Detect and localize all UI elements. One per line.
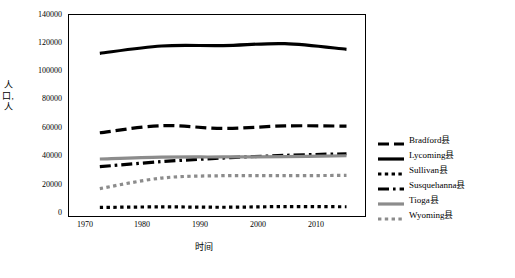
legend-label: Tioga县 <box>409 195 439 205</box>
legend-key-swatch <box>378 135 404 145</box>
legend-key-swatch <box>378 195 404 205</box>
series-line <box>100 44 347 54</box>
legend-item[interactable]: Sullivan县 <box>378 162 510 177</box>
legend-item[interactable]: Bradford县 <box>378 132 510 147</box>
legend-label: Bradford县 <box>409 135 451 145</box>
y-tick-label: 60000 <box>0 124 62 132</box>
y-tick-label: 100000 <box>0 67 62 75</box>
legend-item[interactable]: Tioga县 <box>378 192 510 207</box>
y-tick-label: 140000 <box>0 11 62 19</box>
legend-label: Sullivan县 <box>409 165 448 175</box>
x-tick-label: 1970 <box>70 221 100 229</box>
y-tick-label: 20000 <box>0 181 62 189</box>
legend-item[interactable]: Wyoming县 <box>378 207 510 222</box>
plot-inner <box>69 15 365 216</box>
series-line <box>100 207 347 208</box>
x-tick-label: 2000 <box>243 221 273 229</box>
series-lines <box>69 15 365 216</box>
series-line <box>100 156 347 159</box>
y-tick-label: 0 <box>0 209 62 217</box>
chart-root: 140000 120000 100000 80000 60000 40000 2… <box>0 0 515 278</box>
legend-key-swatch <box>378 210 404 220</box>
legend-key-swatch <box>378 180 404 190</box>
legend-label: Susquehanna县 <box>409 180 466 190</box>
x-tick-label: 1980 <box>127 221 157 229</box>
x-tick-label: 2010 <box>301 221 331 229</box>
legend-label: Lycoming县 <box>409 150 455 160</box>
x-axis-title: 时间 <box>195 240 213 253</box>
series-line <box>100 126 347 133</box>
x-tick-label: 1990 <box>185 221 215 229</box>
plot-area <box>68 14 366 217</box>
y-tick-label: 40000 <box>0 152 62 160</box>
legend-key-swatch <box>378 150 404 160</box>
y-tick-label: 120000 <box>0 39 62 47</box>
series-line <box>100 175 347 188</box>
legend-key-swatch <box>378 165 404 175</box>
legend-label: Wyoming县 <box>409 210 453 220</box>
legend-item[interactable]: Susquehanna县 <box>378 177 510 192</box>
legend-item[interactable]: Lycoming县 <box>378 147 510 162</box>
legend: Bradford县Lycoming县Sullivan县Susquehanna县T… <box>378 132 510 222</box>
y-axis-title: 人口, 人 <box>2 80 14 113</box>
